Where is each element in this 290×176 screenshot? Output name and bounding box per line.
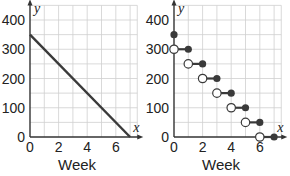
open-point (198, 74, 206, 82)
y-tick-label: 400 (146, 12, 170, 28)
chart-2: yx01002003004000246Week (146, 0, 288, 173)
x-axis-variable: x (132, 120, 140, 135)
closed-point (213, 75, 220, 82)
x-tick-label: 4 (83, 139, 91, 155)
closed-point (271, 133, 278, 140)
open-point (227, 104, 235, 112)
y-axis-arrow-icon (172, 0, 177, 5)
open-point (213, 89, 221, 97)
x-tick-label: 4 (227, 139, 235, 155)
open-point (241, 118, 249, 126)
grid (30, 5, 137, 137)
x-axis-label: Week (202, 156, 241, 173)
closed-point (170, 31, 177, 38)
y-tick-label: 100 (146, 100, 170, 116)
x-axis-arrow-icon (137, 135, 143, 140)
y-tick-label: 0 (17, 129, 25, 145)
closed-point (256, 119, 263, 126)
y-tick-label: 300 (2, 41, 26, 57)
x-axis-variable: x (276, 120, 284, 135)
x-tick-label: 0 (26, 139, 34, 155)
step-segment (170, 45, 192, 53)
y-axis-variable: y (32, 1, 41, 16)
charts-canvas: yx01002003004000246Weekyx010020030040002… (0, 0, 290, 176)
closed-point (199, 60, 206, 67)
x-tick-label: 2 (199, 139, 207, 155)
step-segment (198, 74, 220, 82)
open-point (184, 60, 192, 68)
y-axis-variable: y (176, 1, 185, 16)
axes (172, 0, 288, 140)
y-tick-label: 400 (2, 12, 26, 28)
chart-1: yx01002003004000246Week (2, 0, 144, 173)
y-tick-label: 300 (146, 41, 170, 57)
x-tick-label: 2 (55, 139, 63, 155)
x-tick-label: 6 (112, 139, 120, 155)
closed-point (185, 46, 192, 53)
closed-point (242, 104, 249, 111)
data-line (30, 35, 130, 137)
grid (174, 5, 281, 137)
open-point (256, 133, 264, 141)
y-tick-label: 100 (2, 100, 26, 116)
x-tick-label: 0 (170, 139, 178, 155)
y-tick-label: 200 (146, 71, 170, 87)
x-axis-arrow-icon (281, 135, 287, 140)
open-point (170, 45, 178, 53)
x-axis-label: Week (58, 156, 97, 173)
step-segment (213, 89, 235, 97)
y-tick-label: 0 (161, 129, 169, 145)
step-segment (184, 60, 206, 68)
step-segment (256, 133, 278, 141)
step-segment (241, 118, 263, 126)
axes (28, 0, 144, 140)
closed-point (228, 90, 235, 97)
step-segment (227, 104, 249, 112)
y-tick-label: 200 (2, 71, 26, 87)
y-axis-arrow-icon (28, 0, 33, 5)
